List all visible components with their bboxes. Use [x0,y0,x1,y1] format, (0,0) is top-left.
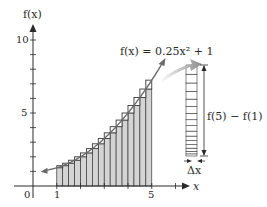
riemann-rectangle [110,133,116,186]
dx-label: Δx [187,164,202,177]
difference-bottom-arrow-icon [202,150,207,156]
riemann-rectangle [92,149,98,186]
curve-left-arrow-icon [41,168,48,174]
stack-box [186,145,197,149]
stack-box [186,120,197,126]
function-label: f(x) = 0.25x² + 1 [120,45,213,58]
dx-right-arrow-icon [197,159,202,163]
stack-box [186,151,197,154]
riemann-rectangle [128,113,134,186]
riemann-rectangle [122,120,128,186]
y-tick-5-label: 5 [21,107,27,118]
x-axis-arrow-icon [182,183,190,190]
difference-top-arrow-icon [202,65,207,71]
y-axis-arrow-icon [30,24,37,32]
stack-box [186,106,197,113]
stack-box [186,113,197,119]
origin-label: 0 [24,189,30,200]
riemann-rectangle [63,166,69,186]
curve-right-arrow-icon [158,58,165,66]
dx-left-arrow-icon [187,159,192,163]
riemann-rectangle [57,168,63,186]
stack-box [186,99,197,106]
riemann-chart: f(x) 10 5 0 1 5 x f(x) = 0.25x² + 1 f(5)… [0,0,267,207]
height-stack [186,65,197,156]
x-tick-1-label: 1 [54,189,60,200]
riemann-rectangle [104,139,110,186]
y-axis-label: f(x) [23,8,42,21]
stack-box [186,91,197,99]
riemann-rectangle [98,144,104,186]
stack-box [186,148,197,151]
stack-box [186,83,197,91]
stack-box [186,126,197,131]
riemann-rectangle [69,163,75,186]
difference-label: f(5) − f(1) [207,110,263,123]
riemann-rectangle [134,105,140,186]
riemann-rectangle [140,97,146,186]
stack-box [186,154,197,156]
riemann-rectangle [146,89,152,186]
riemann-rectangle [116,127,122,186]
stack-box [186,131,197,136]
stack-box [186,141,197,145]
riemann-rectangle [75,160,81,186]
riemann-rectangle [86,153,92,186]
riemann-rectangle [81,157,87,186]
stack-box [186,74,197,83]
x-tick-5-label: 5 [148,189,154,200]
stack-box [186,136,197,141]
y-tick-10-label: 10 [16,34,29,45]
x-axis-label: x [193,180,200,193]
